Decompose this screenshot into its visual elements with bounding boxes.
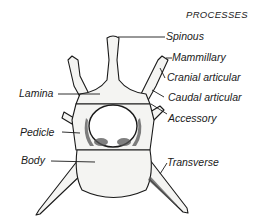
processes-heading: PROCESSES [186, 10, 248, 20]
vertebra-illustration [0, 0, 259, 223]
label-cranial-articular: Cranial articular [167, 72, 241, 83]
vertebral-body [76, 150, 151, 198]
label-spinous: Spinous [166, 31, 204, 42]
label-mammillary: Mammillary [172, 52, 226, 63]
label-lamina: Lamina [19, 88, 53, 99]
label-transverse: Transverse [167, 157, 219, 168]
label-accessory: Accessory [168, 113, 216, 124]
label-pedicle: Pedicle [20, 127, 54, 138]
label-body: Body [21, 155, 45, 166]
vertebra-diagram: PROCESSES Spinous Mammillary Cranial art… [0, 0, 259, 223]
label-caudal-articular: Caudal articular [168, 92, 242, 103]
